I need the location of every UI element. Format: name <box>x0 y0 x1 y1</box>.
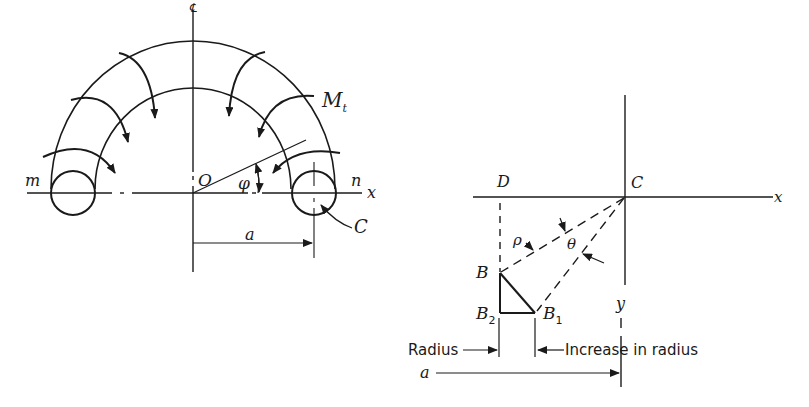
pointer-to-C <box>321 205 352 228</box>
label-m: m <box>25 173 40 189</box>
label-x-right: x <box>774 190 782 205</box>
label-B2-main: B <box>476 303 489 323</box>
label-B2-sub: 2 <box>489 314 496 327</box>
label-theta: θ <box>567 237 576 252</box>
dashed-C-B1 <box>537 198 624 311</box>
moment-subscript: t <box>342 102 346 115</box>
label-a-right: a <box>420 365 430 381</box>
label-C-left: C <box>354 218 368 236</box>
label-B2: B2 <box>476 305 496 322</box>
twisting-moment-arrows <box>43 52 340 173</box>
label-C-right: C <box>631 175 643 191</box>
triangle-hypotenuse <box>500 273 535 313</box>
label-x-left: x <box>367 185 376 201</box>
label-y: y <box>616 296 625 312</box>
label-B: B <box>476 264 489 281</box>
label-n: n <box>351 173 361 189</box>
label-O: O <box>198 172 212 189</box>
radius-label: Radius <box>408 343 458 358</box>
label-B1-sub: 1 <box>556 314 563 327</box>
label-a-left: a <box>245 227 255 243</box>
label-B1: B1 <box>543 305 563 322</box>
label-phi: φ <box>238 175 250 192</box>
moment-M: M <box>322 88 342 112</box>
increase-in-radius-label: Increase in radius <box>565 343 698 358</box>
label-B1-main: B <box>543 303 556 323</box>
centerline-symbol: ℄ <box>189 2 197 14</box>
moment-label: Mt <box>322 90 347 110</box>
label-D: D <box>497 174 510 190</box>
label-rho: ρ <box>513 233 522 248</box>
left-figure <box>27 10 362 272</box>
